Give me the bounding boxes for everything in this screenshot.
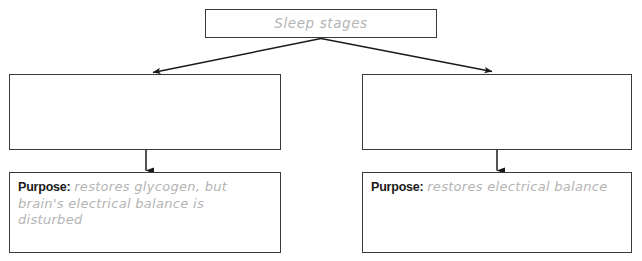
right-purpose-label: Purpose: — [371, 180, 424, 194]
right-purpose-value: restores electrical balance — [427, 179, 607, 194]
worksheet-diagram-canvas: Sleep stages Purpose: restores glycogen,… — [0, 0, 642, 261]
left-branch-answer-box[interactable] — [9, 74, 281, 150]
left-purpose-line: Purpose: restores glycogen, but brain's … — [18, 179, 272, 229]
title-to-right-branch-arrow — [321, 39, 492, 72]
right-branch-answer-box[interactable] — [362, 74, 632, 150]
right-purpose-line: Purpose: restores electrical balance — [371, 179, 623, 196]
title-box[interactable]: Sleep stages — [205, 9, 437, 38]
title-box-label: Sleep stages — [274, 17, 368, 31]
right-purpose-box[interactable]: Purpose: restores electrical balance — [362, 172, 632, 253]
scan-artifact-strip — [0, 0, 642, 7]
left-purpose-label: Purpose: — [18, 180, 71, 194]
title-to-left-branch-arrow — [153, 39, 321, 73]
left-purpose-box[interactable]: Purpose: restores glycogen, but brain's … — [9, 172, 281, 253]
